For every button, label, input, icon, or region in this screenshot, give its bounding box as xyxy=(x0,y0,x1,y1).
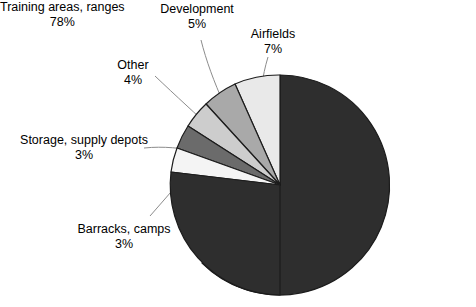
pie-label-development-value: 5% xyxy=(149,17,245,32)
pie-label-training-areas-ranges-value: 78% xyxy=(0,15,125,30)
pie-label-airfields: Airfields 7% xyxy=(237,27,309,57)
pie-label-other: Other 4% xyxy=(104,58,162,88)
pie-label-other-name: Other xyxy=(104,58,162,73)
pie-label-training-areas-ranges-name: Training areas, ranges xyxy=(0,0,125,15)
pie-slices xyxy=(170,75,389,295)
pie-label-airfields-value: 7% xyxy=(237,42,309,57)
pie-label-training-areas-ranges: Training areas, ranges 78% xyxy=(0,0,125,30)
pie-label-development-name: Development xyxy=(149,2,245,17)
pie-chart-figure: se Development 5% Airfields 7% Other xyxy=(0,0,476,307)
pie-label-other-value: 4% xyxy=(104,73,162,88)
pie-label-barracks-camps-name: Barracks, camps xyxy=(63,222,185,237)
pie-slice-training-areas-ranges-lower[interactable] xyxy=(170,172,280,295)
pie-label-storage-supply-depots: Storage, supply depots 3% xyxy=(8,133,160,163)
pie-label-storage-supply-depots-name: Storage, supply depots xyxy=(8,133,160,148)
pie-label-airfields-name: Airfields xyxy=(237,27,309,42)
pie-label-barracks-camps: Barracks, camps 3% xyxy=(63,222,185,252)
pie-label-barracks-camps-value: 3% xyxy=(63,237,185,252)
pie-label-development: Development 5% xyxy=(149,2,245,32)
pie-label-storage-supply-depots-value: 3% xyxy=(8,148,160,163)
